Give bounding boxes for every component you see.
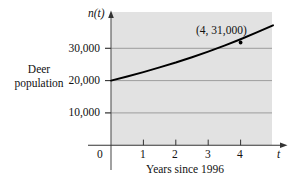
x-axis-arrowhead xyxy=(280,142,288,148)
ytick-label-20000: 20,000 xyxy=(48,74,100,86)
axes xyxy=(88,11,288,171)
xtick-label-2: 2 xyxy=(172,148,178,160)
xtick-label-0: 0 xyxy=(97,148,103,160)
graph-svg xyxy=(0,0,294,185)
x-axis-caption: Years since 1996 xyxy=(146,163,224,175)
annotation-label: (4, 31,000) xyxy=(196,24,247,36)
y-axis-arrowhead xyxy=(108,11,114,19)
ytick-label-10000: 10,000 xyxy=(48,106,100,118)
x-axis-name-label: t xyxy=(277,148,280,160)
deer-population-graph-figure: Deer population 30,000 xyxy=(0,0,294,185)
annotation-point-marker xyxy=(239,41,243,45)
x-axis-ticks xyxy=(143,140,240,146)
xtick-label-3: 3 xyxy=(205,148,211,160)
y-axis-name-label: n(t) xyxy=(88,7,105,19)
xtick-label-4: 4 xyxy=(237,148,243,160)
xtick-label-1: 1 xyxy=(140,148,146,160)
population-curve xyxy=(111,25,273,80)
ytick-label-30000: 30,000 xyxy=(48,42,100,54)
